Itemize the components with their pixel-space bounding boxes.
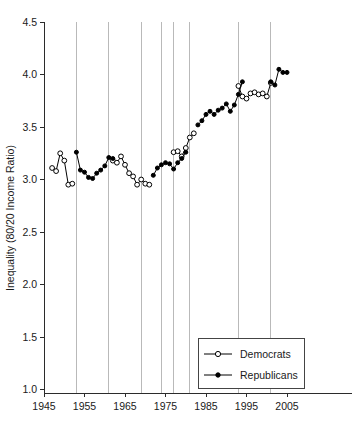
data-point-democrats-1969 xyxy=(139,177,144,182)
data-point-republicans-1953 xyxy=(74,150,78,154)
data-point-republicans-1960 xyxy=(103,164,107,168)
data-point-republicans-1977 xyxy=(172,167,176,171)
data-point-republicans-2002 xyxy=(273,83,277,87)
data-point-democrats-1978 xyxy=(175,149,180,154)
data-point-republicans-1993 xyxy=(236,92,240,96)
data-point-democrats-1950 xyxy=(62,158,67,163)
data-point-democrats-2000 xyxy=(264,94,269,99)
data-point-republicans-1958 xyxy=(95,171,99,175)
legend-label-democrats: Democrats xyxy=(240,348,291,360)
data-point-republicans-1987 xyxy=(212,112,216,116)
y-tick-label-2.0: 2.0 xyxy=(22,278,37,290)
data-point-democrats-1981 xyxy=(187,135,192,140)
data-point-democrats-1949 xyxy=(58,151,63,156)
y-tick-label-1.0: 1.0 xyxy=(22,383,37,395)
x-tick-label-1955: 1955 xyxy=(73,400,97,412)
x-tick-label-2005: 2005 xyxy=(275,400,299,412)
inequality-chart: 1.01.52.02.53.03.54.04.51945195519651975… xyxy=(0,0,359,434)
data-point-republicans-1988 xyxy=(216,108,220,112)
data-point-democrats-1948 xyxy=(54,169,59,174)
data-point-democrats-1963 xyxy=(115,160,120,165)
data-point-republicans-1954 xyxy=(78,168,82,172)
data-point-republicans-1983 xyxy=(196,123,200,127)
data-point-republicans-1985 xyxy=(204,112,208,116)
data-point-republicans-1976 xyxy=(168,162,172,166)
data-point-republicans-1961 xyxy=(107,156,111,160)
data-point-republicans-2003 xyxy=(277,67,281,71)
data-point-republicans-2001 xyxy=(269,80,273,84)
data-point-republicans-1986 xyxy=(208,109,212,113)
y-tick-label-4.5: 4.5 xyxy=(22,16,37,28)
data-point-democrats-1971 xyxy=(147,182,152,187)
data-point-democrats-1964 xyxy=(119,154,124,159)
data-point-republicans-2004 xyxy=(281,70,285,74)
data-point-republicans-1962 xyxy=(111,157,115,161)
data-point-democrats-1967 xyxy=(131,174,136,179)
data-point-republicans-1994 xyxy=(240,80,244,84)
data-point-republicans-1974 xyxy=(159,163,163,167)
data-point-republicans-1979 xyxy=(180,157,184,161)
data-point-republicans-1989 xyxy=(220,106,224,110)
data-point-democrats-1968 xyxy=(135,182,140,187)
data-point-democrats-1982 xyxy=(191,131,196,136)
data-point-republicans-2005 xyxy=(285,70,289,74)
y-axis-title: Inequality (80/20 Income Ratio) xyxy=(4,145,16,291)
data-point-republicans-1955 xyxy=(83,170,87,174)
data-point-democrats-1965 xyxy=(123,162,128,167)
x-tick-label-1995: 1995 xyxy=(235,400,259,412)
y-tick-label-1.5: 1.5 xyxy=(22,331,37,343)
series-republicans xyxy=(74,67,289,180)
data-point-republicans-1978 xyxy=(176,161,180,165)
data-point-republicans-1992 xyxy=(232,103,236,107)
legend-label-republicans: Republicans xyxy=(240,369,298,381)
data-point-republicans-1991 xyxy=(228,109,232,113)
data-point-republicans-1972 xyxy=(151,173,155,177)
data-point-republicans-1984 xyxy=(200,119,204,123)
data-point-democrats-1995 xyxy=(244,96,249,101)
y-tick-label-3.5: 3.5 xyxy=(22,121,37,133)
x-tick-label-1965: 1965 xyxy=(113,400,137,412)
y-tick-label-3.0: 3.0 xyxy=(22,173,37,185)
data-point-republicans-1975 xyxy=(164,161,168,165)
chart-plot-area: 1.01.52.02.53.03.54.04.51945195519651975… xyxy=(0,0,359,434)
data-point-democrats-1952 xyxy=(70,181,75,186)
x-tick-label-1945: 1945 xyxy=(32,400,56,412)
data-point-republicans-1990 xyxy=(224,102,228,106)
data-point-republicans-1980 xyxy=(184,150,188,154)
data-point-republicans-1959 xyxy=(99,168,103,172)
x-tick-label-1985: 1985 xyxy=(194,400,218,412)
data-point-republicans-1957 xyxy=(91,177,95,181)
x-tick-label-1975: 1975 xyxy=(154,400,178,412)
legend-marker-open-circle xyxy=(215,351,220,356)
data-point-republicans-1973 xyxy=(155,166,159,170)
legend-marker-filled-circle xyxy=(216,373,220,377)
y-tick-label-2.5: 2.5 xyxy=(22,226,37,238)
y-tick-label-4.0: 4.0 xyxy=(22,68,37,80)
data-point-republicans-1956 xyxy=(87,175,91,179)
data-point-democrats-1980 xyxy=(183,146,188,151)
